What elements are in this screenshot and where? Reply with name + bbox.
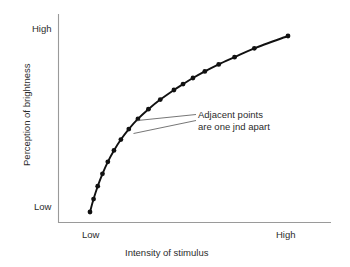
leader-line-lower <box>134 121 197 134</box>
data-point <box>181 82 186 87</box>
data-point <box>91 197 96 202</box>
data-point <box>252 46 257 51</box>
annotation-leader-lines <box>134 115 197 134</box>
data-point <box>112 148 117 153</box>
chart-plot-area <box>0 0 350 267</box>
data-point <box>105 159 110 164</box>
x-axis-tick-high: High <box>276 230 296 240</box>
data-point <box>100 171 105 176</box>
data-point <box>232 55 237 60</box>
data-point <box>172 88 177 93</box>
data-point <box>202 69 207 74</box>
leader-line-upper <box>138 115 197 121</box>
data-point <box>146 107 151 112</box>
x-axis-title: Intensity of stimulus <box>125 248 208 258</box>
data-point <box>158 97 163 102</box>
y-axis-tick-high: High <box>32 24 52 34</box>
data-point <box>286 34 291 39</box>
annotation-line-1: Adjacent points <box>198 109 270 121</box>
annotation-line-2: are one jnd apart <box>198 121 270 133</box>
chart-annotation: Adjacent points are one jnd apart <box>198 109 270 132</box>
data-point <box>88 210 93 215</box>
data-point <box>118 137 123 142</box>
y-axis-tick-low: Low <box>34 202 51 212</box>
y-axis-title: Perception of brightness <box>22 50 32 180</box>
data-point <box>95 184 100 189</box>
chart-figure: High Low Low High Perception of brightne… <box>0 0 350 267</box>
data-point <box>191 76 196 81</box>
data-point <box>126 127 131 132</box>
data-point <box>216 62 221 67</box>
x-axis-tick-low: Low <box>82 230 99 240</box>
